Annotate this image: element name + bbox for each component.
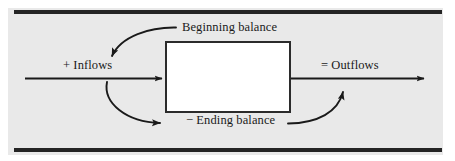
- flow-diagram-figure: Beginning balance + Inflows = Outflows −…: [0, 0, 455, 161]
- label-ending-balance: − Ending balance: [186, 113, 275, 127]
- balance-box: [165, 41, 291, 113]
- label-inflows: + Inflows: [63, 58, 112, 72]
- label-outflows: = Outflows: [321, 58, 379, 72]
- ending-to-outflows-curve: [288, 92, 343, 124]
- label-beginning-balance: Beginning balance: [182, 20, 277, 34]
- inflows-to-ending-curve: [107, 82, 160, 123]
